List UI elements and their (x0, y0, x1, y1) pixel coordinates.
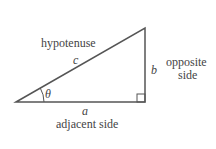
adjacent-side-label: adjacent side (56, 118, 118, 130)
hypotenuse-label: hypotenuse (41, 37, 96, 49)
triangle-diagram: hypotenuse c b opposite side θ a adjacen… (0, 0, 216, 149)
side-c-label: c (73, 54, 78, 66)
angle-arc (40, 88, 44, 102)
side-a-label: a (82, 105, 88, 117)
right-angle-marker (137, 94, 145, 102)
theta-label: θ (45, 88, 51, 100)
opposite-label-line2: side (178, 69, 197, 81)
side-b-label: b (151, 64, 157, 76)
opposite-label-line1: opposite (166, 56, 207, 68)
